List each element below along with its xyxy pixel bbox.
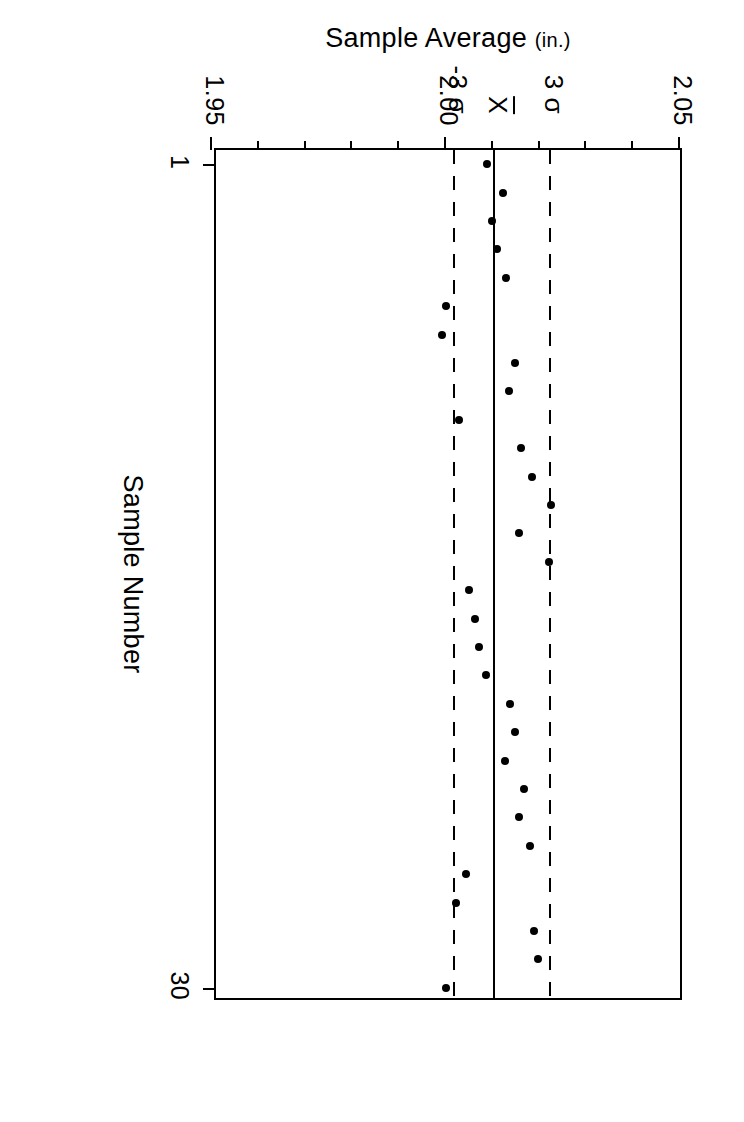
y-tick-label: 1.95	[200, 75, 229, 126]
limit-label-ucl: 3 σ	[538, 75, 569, 114]
data-point	[438, 331, 446, 339]
y-axis-title: Sample Average (in.)	[325, 23, 571, 54]
data-point	[465, 586, 473, 594]
data-point	[511, 728, 519, 736]
data-point	[488, 217, 496, 225]
x-tick	[203, 164, 216, 166]
data-point	[471, 615, 479, 623]
data-point	[501, 757, 509, 765]
data-point	[511, 359, 519, 367]
data-point	[482, 671, 490, 679]
data-point	[547, 501, 555, 509]
control-chart-figure: 3 σX-3 σ2.052.001.95130Sample NumberSamp…	[0, 0, 744, 1122]
x-tick	[203, 988, 216, 990]
data-point	[528, 473, 536, 481]
data-point	[502, 274, 510, 282]
data-point	[520, 785, 528, 793]
data-point	[515, 813, 523, 821]
limit-label-center: X	[482, 96, 513, 114]
plot-area	[214, 148, 682, 1000]
data-point	[499, 189, 507, 197]
data-point	[442, 984, 450, 992]
y-tick-minor	[397, 141, 399, 150]
data-point	[515, 529, 523, 537]
data-point	[517, 444, 525, 452]
reference-line-center	[493, 150, 495, 998]
y-tick-minor	[304, 141, 306, 150]
y-tick-major	[210, 137, 212, 150]
data-point	[506, 700, 514, 708]
y-tick-minor	[257, 141, 259, 150]
data-point	[493, 245, 501, 253]
x-tick-label: 1	[165, 155, 194, 169]
data-point	[452, 899, 460, 907]
y-tick-minor	[631, 141, 633, 150]
rotated-figure-stage: 3 σX-3 σ2.052.001.95130Sample NumberSamp…	[0, 0, 744, 1122]
data-point	[526, 842, 534, 850]
y-tick-minor	[491, 141, 493, 150]
reference-line-lcl	[453, 150, 455, 998]
data-point	[534, 955, 542, 963]
y-tick-major	[444, 137, 446, 150]
x-tick-label: 30	[165, 971, 194, 1000]
x-axis-title: Sample Number	[117, 475, 148, 674]
reference-line-ucl	[549, 150, 551, 998]
y-tick-minor	[538, 141, 540, 150]
data-point	[455, 416, 463, 424]
data-point	[545, 558, 553, 566]
data-point	[462, 870, 470, 878]
y-tick-minor	[350, 141, 352, 150]
data-point	[483, 160, 491, 168]
y-axis-title-text: Sample Average	[325, 23, 535, 53]
y-tick-major	[678, 137, 680, 150]
y-tick-label: 2.00	[434, 75, 463, 126]
y-axis-units: (in.)	[535, 29, 571, 51]
data-point	[475, 643, 483, 651]
data-point	[530, 927, 538, 935]
y-tick-label: 2.05	[668, 75, 697, 126]
y-tick-minor	[584, 141, 586, 150]
data-point	[442, 302, 450, 310]
data-point	[505, 387, 513, 395]
